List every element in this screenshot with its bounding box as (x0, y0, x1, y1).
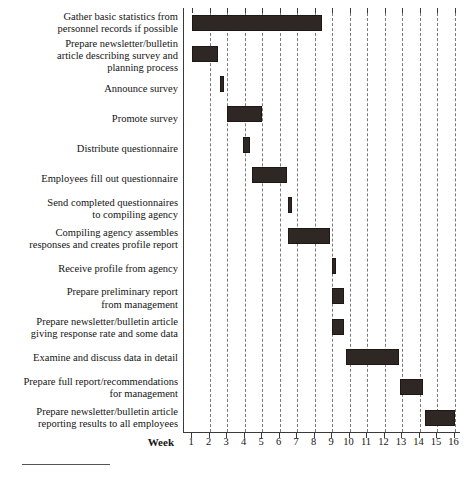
gantt-bar (346, 349, 399, 365)
gantt-bar-row (184, 99, 460, 129)
gantt-bar (220, 76, 224, 92)
week-number-label: 15 (431, 436, 442, 447)
task-label: Prepare preliminary report from manageme… (0, 284, 183, 314)
gantt-bar-row (184, 281, 460, 311)
week-number-label: 8 (311, 436, 316, 447)
gantt-bar (252, 167, 287, 183)
gantt-bar-row (184, 372, 460, 402)
task-label: Receive profile from agency (0, 254, 183, 284)
task-label: Gather basic statistics from personnel r… (0, 8, 183, 38)
x-axis-label: Week (0, 436, 180, 448)
chart-body: Gather basic statistics from personnel r… (0, 8, 464, 433)
gantt-bar-row (184, 403, 460, 433)
week-number-label: 9 (328, 436, 333, 447)
gantt-bar-row (184, 342, 460, 372)
plot-area (183, 8, 460, 433)
task-label: Prepare newsletter/bulletin article desc… (0, 38, 183, 75)
week-number-label: 7 (293, 436, 298, 447)
gantt-bar-row (184, 129, 460, 159)
gantt-bar (425, 410, 455, 426)
task-label: Prepare newsletter/bulletin article repo… (0, 403, 183, 433)
task-label-column: Gather basic statistics from personnel r… (0, 8, 183, 433)
gantt-bar-row (184, 251, 460, 281)
gantt-bar (243, 137, 250, 153)
gantt-bar (192, 15, 322, 31)
gantt-bar-row (184, 8, 460, 38)
x-axis-row: Week 12345678910111213141516 (0, 433, 464, 453)
gantt-bar-row (184, 312, 460, 342)
gantt-bar (288, 228, 330, 244)
task-label: Examine and discuss data in detail (0, 343, 183, 373)
gantt-bar (332, 288, 344, 304)
gantt-bar-row (184, 38, 460, 68)
gantt-bar (288, 197, 292, 213)
task-label: Announce survey (0, 74, 183, 104)
task-label: Send completed questionnaires to compili… (0, 194, 183, 224)
week-number-label: 14 (413, 436, 424, 447)
week-number-label: 5 (258, 436, 263, 447)
task-label: Distribute questionnaire (0, 134, 183, 164)
gantt-bar-row (184, 221, 460, 251)
week-number-label: 11 (361, 436, 371, 447)
gantt-chart-figure: Gather basic statistics from personnel r… (0, 0, 464, 481)
gantt-bar-row (184, 160, 460, 190)
week-number-label: 13 (396, 436, 407, 447)
footnote-divider-rule (22, 464, 110, 465)
x-axis-tick-labels: 12345678910111213141516 (183, 436, 460, 452)
gantt-bar-row (184, 190, 460, 220)
week-number-label: 4 (241, 436, 246, 447)
gantt-bar (400, 379, 423, 395)
week-number-label: 6 (276, 436, 281, 447)
week-number-label: 12 (378, 436, 389, 447)
week-number-label: 16 (448, 436, 459, 447)
task-label: Employees fill out questionnaire (0, 164, 183, 194)
gantt-bar (332, 258, 336, 274)
gantt-bar-row (184, 69, 460, 99)
week-number-label: 10 (343, 436, 354, 447)
week-number-label: 2 (206, 436, 211, 447)
task-label: Prepare newsletter/bulletin article givi… (0, 314, 183, 344)
week-number-label: 1 (188, 436, 193, 447)
gantt-bar (227, 106, 262, 122)
task-label: Compiling agency assembles responses and… (0, 224, 183, 254)
gantt-bar (332, 319, 344, 335)
week-number-label: 3 (223, 436, 228, 447)
gantt-bars-layer (184, 8, 460, 432)
task-label: Promote survey (0, 104, 183, 134)
task-label: Prepare full report/recommendations for … (0, 373, 183, 403)
gantt-bar (192, 46, 218, 62)
